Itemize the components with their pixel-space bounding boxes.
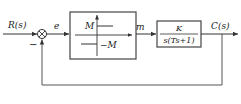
summing-junction [38, 30, 47, 39]
relay-upper-label: M [84, 21, 95, 31]
relay-block [70, 12, 136, 59]
plant-denominator: s(Ts+1) [164, 36, 195, 45]
feedback-sign: − [29, 39, 37, 50]
input-label: R(s) [7, 20, 27, 30]
relay-lower-label: −M [100, 40, 118, 50]
output-label: C(s) [211, 21, 230, 31]
control-label: m [136, 22, 145, 32]
block-diagram: R(s) − e M −M m K s(Ts+1) C(s) [0, 0, 241, 104]
plant-numerator: K [175, 24, 183, 33]
error-label: e [54, 21, 59, 31]
